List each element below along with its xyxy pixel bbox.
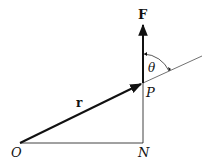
torque-diagram: F r θ P O N (0, 0, 214, 167)
label-position: r (76, 97, 82, 109)
position-vector-r (20, 84, 141, 143)
label-angle: θ (148, 62, 155, 74)
label-force: F (138, 8, 147, 21)
label-point-p: P (146, 86, 155, 99)
diagram-canvas (0, 0, 214, 167)
label-foot-n: N (138, 146, 149, 159)
arc-arrowhead-icon (144, 52, 147, 56)
label-origin: O (11, 146, 22, 159)
